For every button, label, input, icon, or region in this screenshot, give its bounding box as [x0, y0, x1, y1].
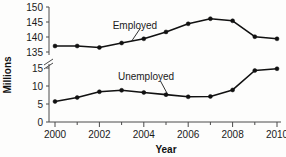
x-tick-labels: 200020022004200620082010 — [44, 129, 286, 140]
data-point-marker — [275, 37, 279, 41]
data-point-marker — [231, 88, 235, 92]
data-point-marker — [231, 19, 235, 23]
x-tick-label: 2004 — [133, 129, 156, 140]
data-point-marker — [75, 96, 79, 100]
x-tick-marks — [55, 122, 277, 127]
annotation-leader-line — [160, 81, 167, 93]
y-tick-label: 135 — [26, 47, 43, 58]
data-point-marker — [75, 44, 79, 48]
data-point-marker — [208, 94, 212, 98]
y-tick-label: 145 — [26, 17, 43, 28]
data-point-marker — [53, 44, 57, 48]
data-point-marker — [253, 35, 257, 39]
x-axis-title: Year — [155, 144, 176, 155]
data-point-marker — [186, 95, 190, 99]
series-annotation-label: Unemployed — [118, 71, 174, 82]
employment-line-chart: 051015135140145150 200020022004200620082… — [0, 0, 286, 157]
y-axis-title: Millions — [2, 56, 13, 94]
y-tick-labels: 051015135140145150 — [26, 2, 43, 128]
y-tick-label: 10 — [32, 81, 44, 92]
y-tick-label: 140 — [26, 32, 43, 43]
y-tick-label: 15 — [32, 63, 44, 74]
data-point-marker — [164, 93, 168, 97]
data-point-marker — [208, 17, 212, 21]
data-point-marker — [53, 99, 57, 103]
chart-canvas: 051015135140145150 200020022004200620082… — [0, 0, 286, 157]
x-tick-label: 2000 — [44, 129, 67, 140]
data-point-marker — [97, 90, 101, 94]
data-point-marker — [142, 90, 146, 94]
x-tick-label: 2010 — [266, 129, 286, 140]
x-axis-group: 200020022004200620082010 — [44, 122, 286, 140]
data-point-marker — [164, 30, 168, 34]
x-tick-label: 2008 — [221, 129, 244, 140]
y-tick-label: 0 — [37, 117, 43, 128]
data-point-marker — [275, 67, 279, 71]
y-axis-group: 051015135140145150 — [26, 2, 53, 128]
x-tick-label: 2002 — [88, 129, 111, 140]
data-point-marker — [97, 46, 101, 50]
data-point-marker — [142, 37, 146, 41]
data-point-marker — [253, 69, 257, 73]
series-annotation-label: Employed — [113, 20, 157, 31]
data-point-marker — [186, 22, 190, 26]
y-tick-label: 5 — [37, 99, 43, 110]
data-point-marker — [120, 41, 124, 45]
x-tick-label: 2006 — [177, 129, 200, 140]
data-point-marker — [120, 88, 124, 92]
series-employed — [53, 17, 279, 50]
y-tick-label: 150 — [26, 2, 43, 13]
